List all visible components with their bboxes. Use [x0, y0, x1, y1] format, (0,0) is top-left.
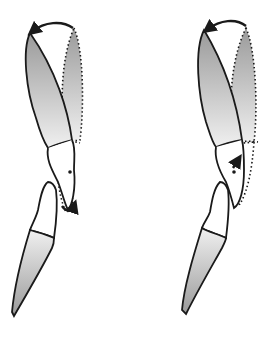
- crown-rotation-arrow-icon: [208, 21, 246, 29]
- rotation-center-dot: [68, 170, 72, 174]
- lower-tooth: [12, 182, 57, 316]
- panel-left: [0, 0, 136, 342]
- crown-rotation-arrow-icon: [33, 23, 73, 31]
- panel-right: [136, 0, 272, 342]
- lower-tooth: [182, 182, 229, 314]
- rotation-center-dot: [232, 170, 236, 174]
